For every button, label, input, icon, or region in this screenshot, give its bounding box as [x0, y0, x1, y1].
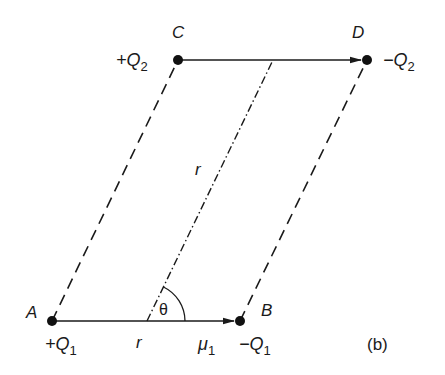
charge-label-D: −Q2 [383, 50, 415, 74]
dashed-line-AC [52, 60, 178, 321]
label-C: C [172, 23, 185, 42]
charge-B-main: −Q [239, 334, 264, 354]
charge-label-B: −Q1 [239, 334, 271, 358]
dipole-moment-label: μ1 [197, 334, 215, 358]
label-B: B [261, 301, 272, 320]
charge-point-C [173, 55, 183, 65]
charge-A-sub: 1 [70, 343, 77, 358]
charge-C-sub: 2 [141, 59, 148, 74]
charge-point-A [47, 316, 57, 326]
label-D: D [352, 23, 364, 42]
dipole-diagram: C D A B +Q2 −Q2 +Q1 −Q1 μ1 θ r r (b) [0, 0, 445, 375]
charge-B-sub: 1 [264, 343, 271, 358]
charge-label-C: +Q2 [116, 50, 148, 74]
charge-point-D [362, 55, 372, 65]
separation-line-r [147, 60, 273, 321]
origin-r-label: r [136, 333, 143, 352]
mu-sub: 1 [208, 343, 215, 358]
label-A: A [25, 303, 37, 322]
charge-label-A: +Q1 [45, 334, 77, 358]
charge-D-sub: 2 [408, 59, 415, 74]
dashed-line-BD [240, 60, 367, 321]
charge-C-main: +Q [116, 50, 141, 70]
figure-tag: (b) [367, 335, 388, 354]
charge-A-main: +Q [45, 334, 70, 354]
distance-r-label: r [195, 160, 202, 179]
angle-theta-label: θ [159, 301, 168, 318]
charge-point-B [235, 316, 245, 326]
mu-symbol: μ [197, 334, 208, 354]
charge-D-main: −Q [383, 50, 408, 70]
